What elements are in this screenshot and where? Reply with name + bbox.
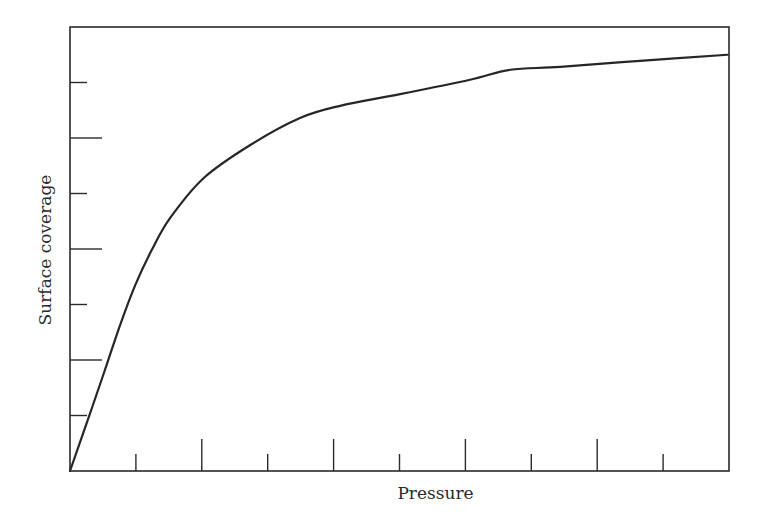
x-axis-label: Pressure bbox=[397, 483, 473, 503]
isotherm-curve bbox=[70, 55, 728, 471]
x-axis-ticks bbox=[136, 439, 663, 471]
surface-coverage-chart: Pressure Surface coverage bbox=[0, 0, 763, 518]
y-axis-ticks bbox=[70, 83, 102, 416]
y-axis-label: Surface coverage bbox=[35, 175, 55, 326]
